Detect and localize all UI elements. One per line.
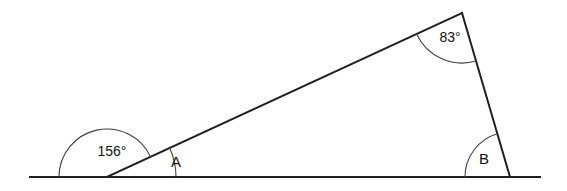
label-apex-83: 83° (439, 29, 460, 45)
label-exterior-156: 156° (98, 143, 127, 159)
label-angle-b: B (479, 150, 489, 167)
transversal-line (107, 13, 462, 177)
geometry-diagram-canvas: 156° A 83° B (0, 0, 567, 191)
triangle-angle-figure: 156° A 83° B (0, 0, 567, 191)
label-angle-a: A (171, 153, 181, 170)
angle-labels: 156° A 83° B (98, 29, 489, 170)
